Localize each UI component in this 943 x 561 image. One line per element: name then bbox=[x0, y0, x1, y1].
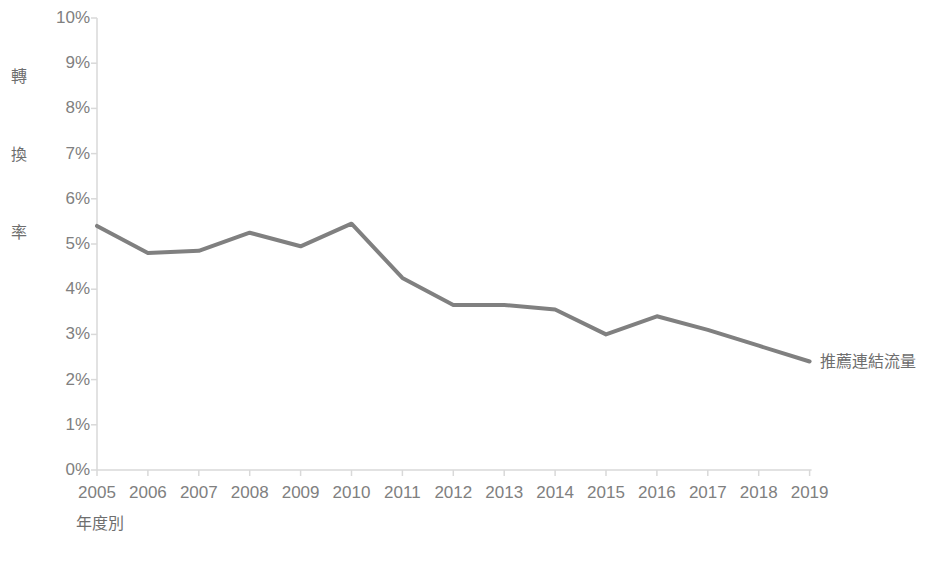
line-chart: 轉 換 率 0%1%2%3%4%5%6%7%8%9%10% 2005200620… bbox=[0, 0, 943, 561]
x-axis-tick-labels: 2005200620072008200920102011201220132014… bbox=[0, 0, 943, 561]
x-axis-title: 年度別 bbox=[76, 514, 124, 534]
series-label-referral-traffic: 推薦連結流量 bbox=[820, 353, 916, 371]
x-axis-tick-label: 2019 bbox=[775, 484, 845, 501]
